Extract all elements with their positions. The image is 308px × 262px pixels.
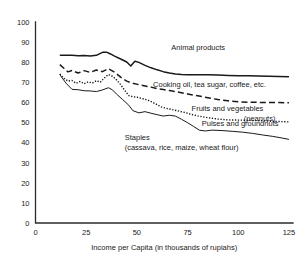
- x-axis-title: Income per Capita (in thousands of rupia…: [91, 243, 237, 252]
- x-tick-label: 50: [133, 228, 141, 237]
- x-tick-label: 125: [283, 228, 296, 237]
- x-tick-label: 0: [33, 228, 37, 237]
- y-tick-label: 30: [21, 159, 29, 168]
- y-tick-label: 50: [21, 118, 29, 127]
- y-tick-label: 70: [21, 78, 29, 87]
- series-label-3-line2: (peanuts): [244, 114, 276, 123]
- y-tick-label: 100: [17, 18, 30, 27]
- series-label-2: Fruits and vegetables: [192, 104, 264, 113]
- y-axis-tick-labels: 0102030405060708090100: [17, 18, 30, 228]
- line-chart: 0102030405060708090100 0255075100125 Ani…: [0, 0, 308, 262]
- x-axis-tick-labels: 0255075100125: [33, 228, 295, 237]
- y-tick-label: 10: [21, 199, 29, 208]
- x-tick-label: 100: [232, 228, 245, 237]
- series-annotations-group: Animal productsCooking oil, tea sugar, c…: [125, 43, 279, 151]
- y-tick-label: 20: [21, 179, 29, 188]
- series-label-1: Cooking oil, tea sugar, coffee, etc.: [153, 80, 266, 89]
- x-tick-label: 75: [183, 228, 191, 237]
- annotation-0: Staples: [125, 133, 150, 142]
- y-tick-label: 90: [21, 38, 29, 47]
- y-tick-label: 0: [25, 219, 29, 228]
- y-tick-label: 80: [21, 58, 29, 67]
- chart-figure: 0102030405060708090100 0255075100125 Ani…: [0, 0, 308, 262]
- series-line-0: [60, 52, 289, 77]
- x-tick-label: 25: [82, 228, 90, 237]
- annotation-1: (cassava, rice, maize, wheat flour): [125, 143, 239, 152]
- series-label-0: Animal products: [171, 43, 225, 52]
- y-tick-label: 40: [21, 138, 29, 147]
- y-tick-label: 60: [21, 98, 29, 107]
